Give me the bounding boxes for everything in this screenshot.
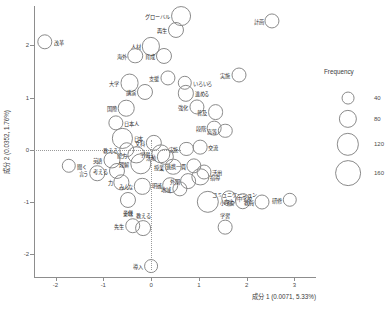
bubble-label: 理解 xyxy=(119,160,129,167)
x-tick xyxy=(151,277,152,281)
bubble-point[interactable] xyxy=(37,34,52,49)
bubble-point[interactable] xyxy=(231,68,246,83)
bubble-point[interactable] xyxy=(172,181,187,196)
legend: Frequency 4080120160 xyxy=(322,68,386,78)
y-tick xyxy=(30,45,34,46)
legend-bubble xyxy=(342,92,355,105)
bubble-label: 英語 xyxy=(93,157,103,164)
y-tick-label: 1 xyxy=(26,95,29,101)
legend-title: Frequency xyxy=(322,68,386,75)
x-tick-label: -1 xyxy=(101,282,106,288)
bubble-point[interactable] xyxy=(208,104,224,120)
bubble-label: 研修 xyxy=(272,196,282,203)
bubble-point[interactable] xyxy=(160,70,175,85)
bubble-label: 再生 xyxy=(157,26,167,33)
y-tick xyxy=(30,98,34,99)
bubble-label: 学習 xyxy=(220,212,230,219)
bubble-label: 強化 xyxy=(178,103,188,110)
x-tick-label: -2 xyxy=(53,282,58,288)
bubble-label: 力 xyxy=(108,179,113,186)
x-tick xyxy=(56,277,57,281)
bubble-point[interactable] xyxy=(136,220,152,236)
bubble-label: 聞く xyxy=(77,162,87,169)
bubble-label: 大学 xyxy=(109,79,119,86)
bubble-point[interactable] xyxy=(177,85,193,101)
bubble-label: 考える xyxy=(93,167,108,174)
bubble-chart: -2-1012 -2-10123 グローバル再生計画改革人材海外育成大学講演支援… xyxy=(0,0,388,312)
bubble-label: 進める xyxy=(195,90,210,97)
bubble-label: グローバル xyxy=(145,12,170,19)
legend-value: 120 xyxy=(374,141,384,147)
bubble-point[interactable] xyxy=(192,140,207,155)
legend-value: 80 xyxy=(374,116,381,122)
bubble-point[interactable] xyxy=(130,153,151,174)
y-tick-label: 2 xyxy=(26,42,29,48)
y-tick-label: 0 xyxy=(26,147,29,153)
legend-bubble xyxy=(339,110,357,128)
bubble-label: 言う xyxy=(79,170,89,177)
bubble-label: いろいろ xyxy=(193,79,213,86)
bubble-label: 連携一貫 xyxy=(166,162,186,169)
bubble-point[interactable] xyxy=(128,48,144,64)
bubble-label: 海外 xyxy=(117,52,127,59)
bubble-label: 日本人 xyxy=(124,119,139,126)
bubble-point[interactable] xyxy=(218,124,232,138)
legend-bubble xyxy=(335,160,361,186)
bubble-point[interactable] xyxy=(144,259,158,273)
bubble-label: 講演 xyxy=(126,89,136,96)
x-tick xyxy=(294,277,295,281)
x-tick xyxy=(247,277,248,281)
bubble-label: 導入 xyxy=(133,262,143,269)
bubble-point[interactable] xyxy=(254,195,269,210)
bubble-label: 育成 xyxy=(145,53,155,60)
x-tick xyxy=(103,277,104,281)
x-tick-label: 0 xyxy=(149,282,152,288)
bubble-label: 支援 xyxy=(149,74,159,81)
y-tick-label: -1 xyxy=(24,199,29,205)
bubble-point[interactable] xyxy=(118,100,135,117)
bubble-point[interactable] xyxy=(264,13,279,28)
bubble-point[interactable] xyxy=(168,22,184,38)
bubble-point[interactable] xyxy=(134,178,150,194)
bubble-point[interactable] xyxy=(218,220,233,235)
bubble-point[interactable] xyxy=(120,192,136,208)
bubble-point[interactable] xyxy=(179,142,193,156)
x-tick-label: 2 xyxy=(245,282,248,288)
bubble-label: 向上 xyxy=(224,198,234,205)
bubble-label: 教える xyxy=(136,212,151,219)
y-axis-line xyxy=(34,6,35,278)
y-tick-label: -2 xyxy=(24,251,29,257)
x-axis-line xyxy=(34,277,316,278)
bubble-label: 地域 xyxy=(161,186,171,193)
bubble-label: 普及 xyxy=(197,109,207,116)
bubble-point[interactable] xyxy=(137,84,153,100)
bubble-label: 高等 xyxy=(207,128,217,135)
bubble-label: 授業 xyxy=(154,163,164,170)
y-axis-title: 成分 2 (0.0352, 1.76%) xyxy=(2,110,11,174)
bubble-label: 明確 xyxy=(152,182,162,189)
bubble-label: 教員 xyxy=(244,199,254,206)
bubble-label: 実施 xyxy=(220,72,230,79)
bubble-label: みんな xyxy=(119,183,134,190)
x-axis-title: 成分 1 (0.0071, 5.33%) xyxy=(34,292,316,301)
y-tick xyxy=(30,202,34,203)
y-tick xyxy=(30,254,34,255)
bubble-point[interactable] xyxy=(196,191,218,213)
bubble-label: 段階 xyxy=(196,124,206,131)
plot-area: -2-1012 -2-10123 グローバル再生計画改革人材海外育成大学講演支援… xyxy=(34,6,316,278)
bubble-label: 意味 xyxy=(123,210,133,217)
bubble-label: 文科 xyxy=(135,139,145,146)
bubble-label: 交流 xyxy=(208,144,218,151)
bubble-point[interactable] xyxy=(62,158,76,172)
x-tick xyxy=(199,277,200,281)
bubble-label: 指導 xyxy=(210,174,220,181)
bubble-label: 国際 xyxy=(107,105,117,112)
bubble-point[interactable] xyxy=(282,192,296,206)
legend-value: 40 xyxy=(374,95,381,101)
bubble-label: 先生 xyxy=(114,222,124,229)
x-tick-label: 1 xyxy=(197,282,200,288)
bubble-label: 計画 xyxy=(254,17,264,24)
bubble-label: 改革 xyxy=(54,38,64,45)
legend-value: 160 xyxy=(374,170,384,176)
bubble-point[interactable] xyxy=(155,48,171,64)
